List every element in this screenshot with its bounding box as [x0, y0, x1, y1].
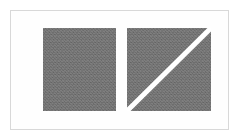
figure-frame	[10, 10, 229, 130]
gray-square-plain	[43, 28, 116, 111]
diagonal-line-stroke	[127, 28, 211, 111]
diagonal-line-icon	[127, 28, 211, 111]
figure-root	[0, 0, 243, 140]
gray-square-with-diagonal	[127, 28, 211, 111]
